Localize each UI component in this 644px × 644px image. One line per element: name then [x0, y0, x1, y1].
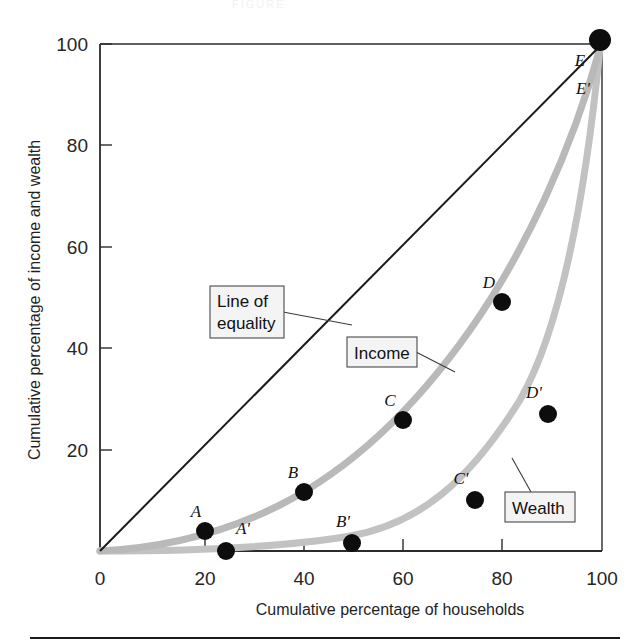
data-point-label-C-prime: C': [454, 469, 469, 488]
data-point-label-E: E: [574, 51, 586, 70]
y-tick-label-60: 60: [67, 237, 88, 258]
income-data-points: A B C D E: [190, 29, 611, 540]
x-axis-title: Cumulative percentage of households: [256, 601, 525, 618]
data-point-label-A-prime: A': [235, 519, 250, 538]
data-point-label-B-prime: B': [336, 512, 350, 531]
y-tick-label-40: 40: [67, 338, 88, 359]
data-point-D-prime: [539, 405, 557, 423]
x-tick-labels: 0 20 40 60 80 100: [95, 568, 618, 589]
data-point-label-D: D: [482, 273, 496, 292]
callout-line-of-equality-line2: equality: [217, 314, 276, 333]
data-point-label-A: A: [190, 502, 202, 521]
callout-wealth: Wealth: [505, 458, 575, 522]
callout-wealth-label: Wealth: [512, 499, 565, 518]
line-of-equality: [100, 46, 600, 551]
y-axis-title: Cumulative percentage of income and weal…: [26, 140, 43, 460]
x-tick-label-40: 40: [293, 568, 314, 589]
data-point-B: [295, 483, 313, 501]
callout-line-of-equality-line1: Line of: [217, 292, 268, 311]
y-tick-labels: 100 80 60 40 20: [56, 34, 88, 461]
data-point-A: [196, 522, 214, 540]
data-point-C-prime: [466, 491, 484, 509]
data-point-label-D-prime: D': [525, 383, 542, 402]
x-tick-label-60: 60: [392, 568, 413, 589]
x-tick-label-100: 100: [586, 568, 618, 589]
data-point-B-prime: [343, 534, 361, 552]
data-point-D: [493, 293, 511, 311]
x-tick-label-0: 0: [95, 568, 106, 589]
y-tick-label-80: 80: [67, 135, 88, 156]
callout-line-of-equality: Line of equality: [210, 286, 352, 338]
data-point-label-B: B: [288, 463, 299, 482]
data-point-label-E-prime: E': [575, 79, 590, 98]
x-tick-label-20: 20: [194, 568, 215, 589]
chart-canvas: 100 80 60 40 20 0 20 40 60 80 100 Cumula…: [0, 0, 644, 644]
data-point-E: [589, 29, 611, 51]
y-tick-label-100: 100: [56, 34, 88, 55]
y-axis-ticks: [100, 44, 112, 450]
x-tick-label-80: 80: [491, 568, 512, 589]
lorenz-curve-figure: FIGURE 100 80 60 40: [0, 0, 644, 644]
data-point-label-C: C: [384, 391, 396, 410]
callout-income-label: Income: [354, 344, 410, 363]
data-point-C: [394, 411, 412, 429]
y-tick-label-20: 20: [67, 440, 88, 461]
data-point-A-prime: [217, 542, 235, 560]
